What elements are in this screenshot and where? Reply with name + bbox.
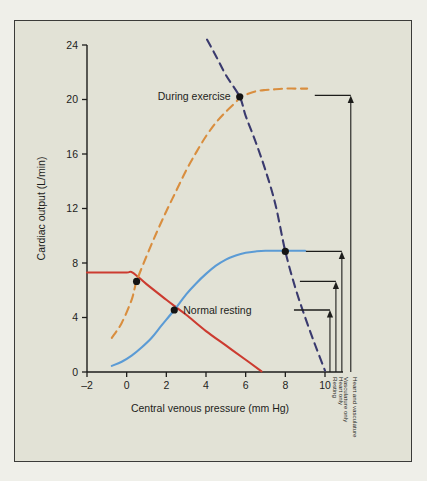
data-point-label-during-exercise: During exercise: [158, 90, 231, 102]
annotation-label-resting: Resting: [332, 377, 339, 399]
y-tick-label: 20: [66, 93, 78, 105]
annotation-arrowhead-heart-and-vasculature: [348, 95, 354, 103]
y-tick-label: 4: [72, 311, 78, 323]
annotation-arrowhead-resting: [327, 310, 333, 318]
x-tick-label: –2: [81, 379, 93, 391]
y-axis-ticks: 04812162024: [66, 39, 87, 378]
y-tick-label: 0: [72, 366, 78, 378]
x-tick-label: 10: [319, 379, 331, 391]
annotation-label-heart-only: Heart only: [338, 377, 345, 406]
data-point-heart-and-vasculature-equilibrium: [282, 248, 289, 255]
y-tick-label: 12: [66, 202, 78, 214]
x-tick-label: 8: [282, 379, 288, 391]
series-vascular-function-resting: [87, 272, 262, 372]
y-axis-title: Cardiac output (L/min): [35, 157, 47, 261]
annotation-label-vasculature-only: Vasculature only: [343, 377, 350, 423]
data-point-label-normal-resting: Normal resting: [183, 304, 251, 316]
annotation-arrowhead-heart-only: [333, 281, 339, 289]
y-tick-label: 8: [72, 257, 78, 269]
chart-points-layer: Normal restingDuring exercise: [133, 90, 289, 315]
chart-series-layer: [87, 40, 325, 372]
cardiac-output-chart: –20246810 04812162024 RestingHeart onlyV…: [15, 21, 410, 460]
x-tick-label: 0: [124, 379, 130, 391]
x-tick-label: 4: [203, 379, 209, 391]
x-tick-label: 2: [163, 379, 169, 391]
annotation-label-heart-and-vasculature: Heart and vasculature: [352, 377, 359, 438]
x-tick-label: 6: [243, 379, 249, 391]
x-axis-title: Central venous pressure (mm Hg): [131, 402, 289, 414]
data-point-normal-resting: [171, 306, 178, 313]
figure-frame: –20246810 04812162024 RestingHeart onlyV…: [14, 20, 412, 462]
data-point-resting-equilibrium: [133, 278, 140, 285]
data-point-during-exercise: [236, 93, 243, 100]
annotation-arrowhead-vasculature-only: [339, 251, 345, 259]
y-tick-label: 24: [66, 39, 78, 51]
x-axis-ticks: –20246810: [81, 372, 331, 391]
y-tick-label: 16: [66, 148, 78, 160]
